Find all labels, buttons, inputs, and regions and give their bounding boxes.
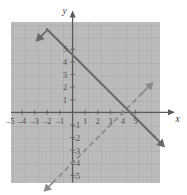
y-tick-label: –3 <box>71 147 80 156</box>
y-tick-label: 3 <box>63 71 67 80</box>
x-tick-label: –4 <box>17 117 26 126</box>
x-tick-label: 3 <box>108 117 112 126</box>
y-tick-label: –4 <box>71 159 80 168</box>
x-tick-label: –2 <box>42 117 51 126</box>
x-axis-label: x <box>174 114 180 124</box>
y-tick-label: 1 <box>63 96 67 105</box>
region-overlay-dark <box>11 22 160 183</box>
coordinate-graph: –1 –2 –3 –4 –5 1 2 3 4 5 5 4 3 2 1 –1 –2… <box>0 0 187 195</box>
x-tick-label: 4 <box>121 117 125 126</box>
arrow-up-icon <box>70 11 76 18</box>
x-tick-label: –1 <box>55 117 64 126</box>
y-tick-label: –5 <box>71 172 80 181</box>
arrow-right-icon <box>168 109 175 115</box>
x-tick-label: –5 <box>6 117 15 126</box>
y-axis-label: y <box>61 6 67 16</box>
y-tick-label: 4 <box>63 58 67 67</box>
graph-canvas: –1 –2 –3 –4 –5 1 2 3 4 5 5 4 3 2 1 –1 –2… <box>0 0 187 195</box>
y-tick-label: 5 <box>63 45 67 54</box>
y-tick-label: 2 <box>63 83 67 92</box>
y-tick-label: –1 <box>71 121 80 130</box>
x-tick-label: –3 <box>30 117 39 126</box>
x-tick-label: 5 <box>134 117 138 126</box>
x-tick-label: 1 <box>83 117 87 126</box>
y-tick-label: –2 <box>71 134 80 143</box>
x-tick-label: 2 <box>96 117 100 126</box>
